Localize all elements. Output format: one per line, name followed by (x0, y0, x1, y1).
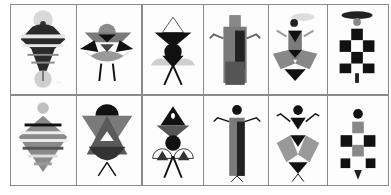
signature: ~~ (57, 81, 61, 85)
geometric-bird-figure-icon (77, 5, 141, 94)
panel-r1c3: Hourglass triangle figure with semicircl… (142, 4, 204, 95)
panel-r2c4: Column figure with round head (203, 95, 269, 186)
panel-r1c4: Tall robed figure with raised arms (203, 4, 269, 95)
panel-r2c5: Triangle dancer with round head (268, 95, 328, 186)
hourglass-figure-icon (143, 5, 203, 94)
column-figure-icon (204, 96, 268, 185)
panel-r2c6: Checker figure with round head (327, 95, 389, 186)
artwork-grid: Striped spinning-top figure with halo ~~… (0, 0, 391, 195)
checker-dress-figure-icon (328, 5, 388, 94)
striped-top-figure-icon (11, 5, 76, 94)
dancer-diamond-figure-icon (269, 5, 327, 94)
robed-figure-icon (204, 5, 268, 94)
panel-r1c5: Dancer with hat and diamond skirt (268, 4, 328, 95)
panel-r1c2: Geometric bird figure with legs (76, 4, 142, 95)
panel-r2c2: Triangle bird figure with dark dome (76, 95, 142, 186)
panel-r1c6: Checkerboard dress figure with wide hat (327, 4, 389, 95)
striped-diamond-figure-icon (11, 96, 76, 185)
panel-r2c1: Striped diamond figure with round head (10, 95, 77, 186)
panel-r1c1: Striped spinning-top figure with halo ~~ (10, 4, 77, 95)
triangle-bird-figure-icon (77, 96, 141, 185)
triangle-fractal-figure-icon (143, 96, 203, 185)
panel-r2c3: Triangle fractal figure (142, 95, 204, 186)
checker-figure-icon (328, 96, 388, 185)
triangle-dancer-figure-icon (269, 96, 327, 185)
